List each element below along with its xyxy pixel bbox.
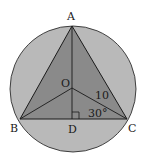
label-d: D xyxy=(68,123,77,136)
geometry-diagram: A B C O D 10 30° xyxy=(0,0,145,161)
label-b: B xyxy=(10,122,18,135)
label-o: O xyxy=(61,77,70,90)
label-a: A xyxy=(66,10,76,23)
label-angle-30: 30° xyxy=(88,107,108,120)
label-c: C xyxy=(128,122,136,135)
label-length-oc: 10 xyxy=(95,89,109,102)
